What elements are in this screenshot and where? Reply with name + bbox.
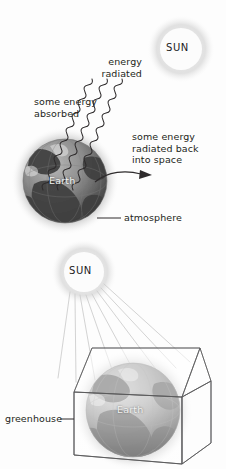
sun-label-bottom: SUN [69,265,92,277]
earth-label-bottom: Earth [117,404,143,416]
label-energy-radiated: energy radiated [86,56,142,79]
label-greenhouse: greenhouse [5,413,62,425]
label-some-energy-absorbed: some energy absorbed [34,96,108,119]
label-atmosphere: atmosphere [124,212,182,224]
sun-label-top: SUN [166,42,189,54]
diagram-root: SUN energy radiated some energy absorbed… [0,0,226,469]
earth-label-top: Earth [49,175,75,187]
label-some-energy-radiated-back: some energy radiated back into space [132,131,222,166]
